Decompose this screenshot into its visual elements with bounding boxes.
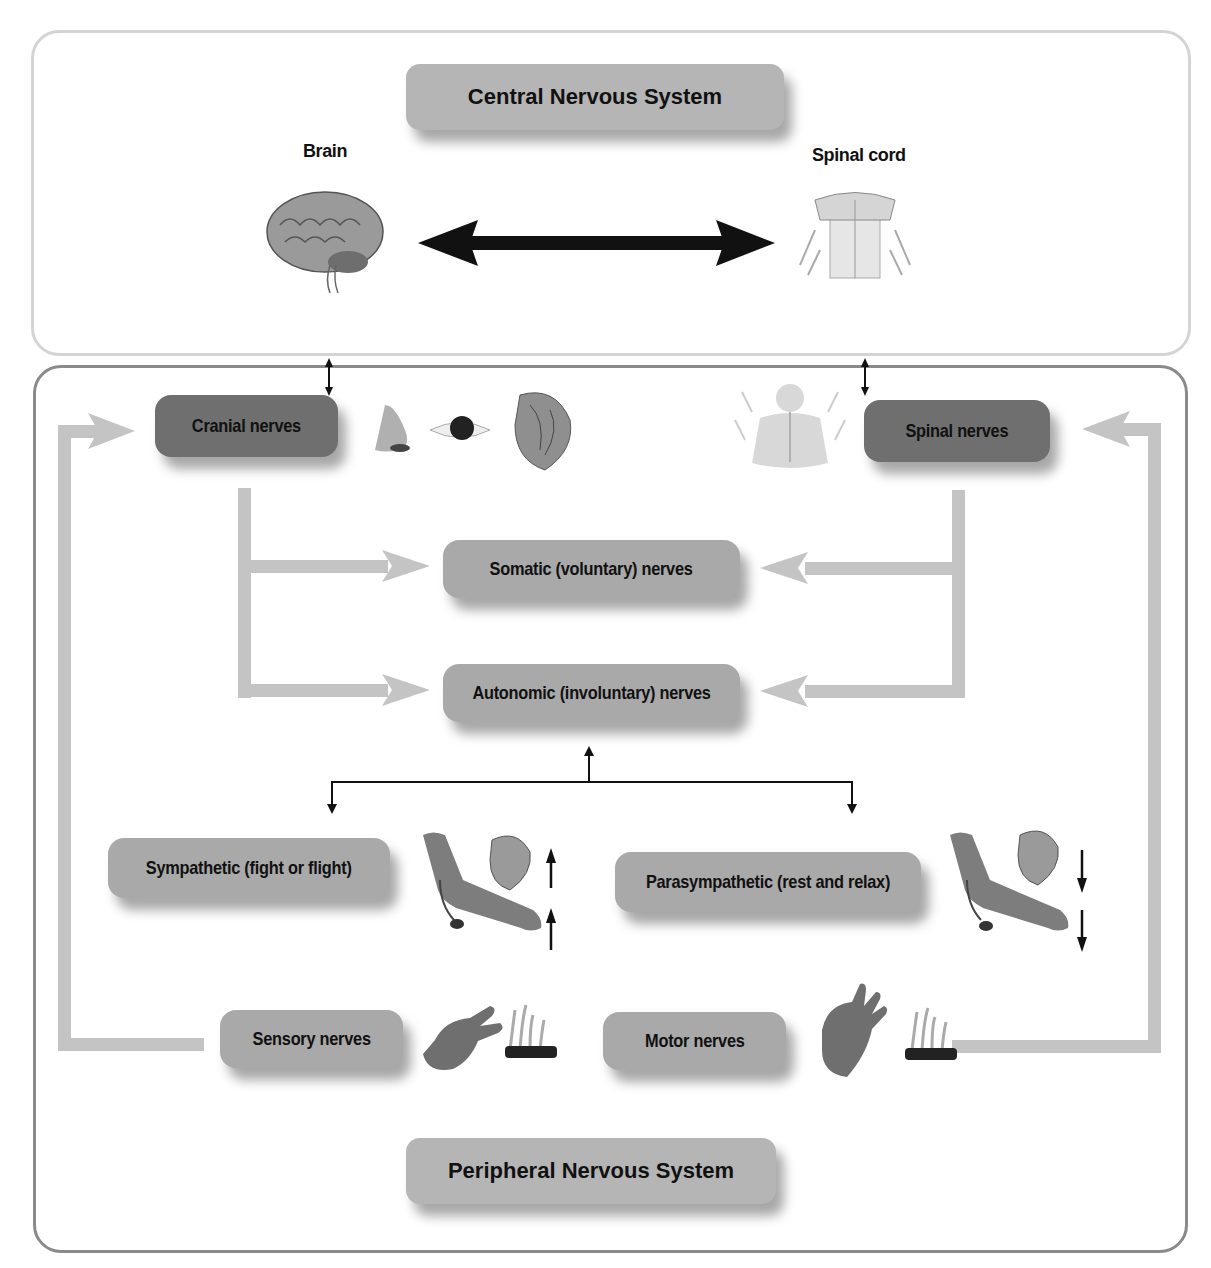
cranial-nerves-label: Cranial nerves [192, 415, 301, 437]
cranial-nerves-box: Cranial nerves [155, 395, 338, 457]
somatic-nerves-label: Somatic (voluntary) nerves [490, 558, 693, 580]
spinalcord-spinal-arrow [861, 358, 869, 396]
sensory-nerves-box: Sensory nerves [220, 1010, 403, 1068]
spinal-nerves-label: Spinal nerves [906, 420, 1009, 442]
spinal-cord-label: Spinal cord [812, 145, 906, 166]
sympathetic-label: Sympathetic (fight or flight) [146, 857, 352, 879]
cns-double-arrow [418, 220, 775, 266]
motor-nerves-label: Motor nerves [645, 1030, 745, 1052]
spinal-cord-illustration [800, 193, 910, 279]
parasympathetic-illustrations [950, 831, 1068, 931]
connector-lines [0, 0, 1211, 1268]
sensory-nerves-label: Sensory nerves [252, 1028, 370, 1050]
brain-label: Brain [303, 141, 347, 162]
sympathetic-illustrations [423, 833, 541, 931]
spinal-nerves-box: Spinal nerves [864, 400, 1050, 462]
torso-illustration [735, 384, 845, 468]
motor-nerves-box: Motor nerves [603, 1012, 786, 1070]
flow-arrows [58, 411, 1161, 1053]
autonomic-nerves-box: Autonomic (involuntary) nerves [443, 664, 740, 722]
autonomic-split-arrows [327, 746, 857, 814]
cns-title-box: Central Nervous System [406, 64, 784, 130]
parasympathetic-box: Parasympathetic (rest and relax) [615, 852, 921, 912]
parasympathetic-label: Parasympathetic (rest and relax) [646, 871, 890, 893]
pns-title-box: Peripheral Nervous System [406, 1138, 776, 1204]
sympathetic-up-arrows [546, 848, 556, 950]
cns-title: Central Nervous System [468, 84, 722, 110]
parasympathetic-down-arrows [1077, 850, 1087, 952]
brain-illustration [267, 192, 383, 293]
sympathetic-box: Sympathetic (fight or flight) [108, 838, 390, 898]
cranial-illustrations [375, 393, 571, 470]
sensory-illustrations [423, 1005, 557, 1070]
brain-cranial-arrow [325, 358, 333, 396]
somatic-nerves-box: Somatic (voluntary) nerves [443, 540, 740, 598]
pns-title: Peripheral Nervous System [448, 1158, 734, 1184]
autonomic-nerves-label: Autonomic (involuntary) nerves [472, 682, 710, 704]
motor-illustrations [822, 984, 957, 1077]
